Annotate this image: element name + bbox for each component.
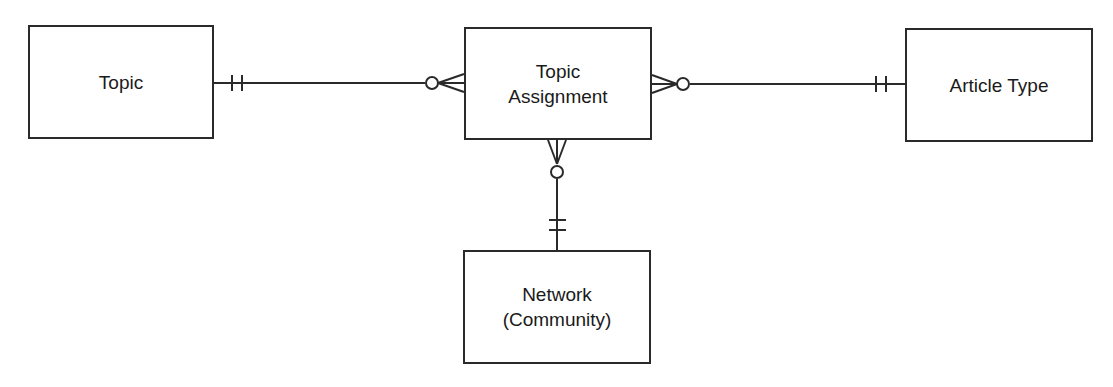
zero-circle-icon	[426, 77, 438, 89]
entity-label-line-1: Network	[503, 282, 612, 307]
entity-label: Article Type	[950, 73, 1049, 98]
relationship-topicassignment-articletype	[652, 75, 905, 93]
zero-circle-icon	[677, 78, 689, 90]
relationship-topicassignment-network	[548, 140, 566, 250]
entity-label-line-2: Assignment	[508, 84, 607, 109]
entity-article-type[interactable]: Article Type	[905, 28, 1093, 142]
crows-foot-icon	[548, 140, 566, 164]
entity-topic[interactable]: Topic	[28, 25, 214, 139]
crows-foot-icon	[438, 74, 464, 92]
entity-topic-assignment[interactable]: Topic Assignment	[464, 27, 652, 140]
zero-circle-icon	[551, 166, 563, 178]
entity-network-community[interactable]: Network (Community)	[463, 250, 651, 364]
entity-label: Topic	[99, 70, 143, 95]
crows-foot-icon	[652, 75, 677, 93]
entity-label-line-1: Topic	[508, 59, 607, 84]
entity-label-line-2: (Community)	[503, 307, 612, 332]
relationship-topic-topicassignment	[214, 74, 464, 92]
